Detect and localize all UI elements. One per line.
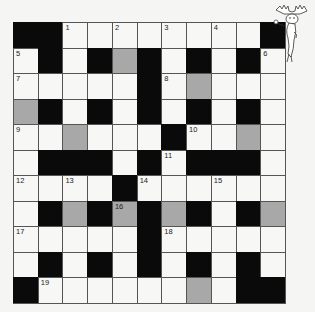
grid-cell[interactable] <box>62 252 87 278</box>
grid-cell[interactable] <box>38 73 63 99</box>
shaded-cell[interactable] <box>62 201 87 227</box>
grid-cell[interactable] <box>13 201 38 227</box>
grid-cell[interactable] <box>211 226 236 252</box>
grid-cell[interactable] <box>62 277 87 303</box>
clue-number: 5 <box>16 50 20 58</box>
grid-cell[interactable] <box>260 175 285 201</box>
black-block <box>236 277 261 303</box>
grid-cell[interactable]: 5 <box>13 48 38 74</box>
shaded-cell[interactable] <box>161 201 186 227</box>
grid-cell[interactable] <box>260 150 285 176</box>
grid-cell[interactable] <box>62 48 87 74</box>
grid-cell[interactable]: 12 <box>13 175 38 201</box>
black-block <box>161 124 186 150</box>
grid-cell[interactable] <box>260 73 285 99</box>
grid-cell[interactable] <box>236 73 261 99</box>
grid-cell[interactable] <box>87 124 112 150</box>
grid-cell[interactable]: 19 <box>38 277 63 303</box>
shaded-cell[interactable] <box>186 277 211 303</box>
grid-cell[interactable] <box>186 175 211 201</box>
grid-cell[interactable] <box>87 22 112 48</box>
grid-cell[interactable] <box>137 22 162 48</box>
shaded-cell[interactable] <box>260 201 285 227</box>
grid-cell[interactable]: 9 <box>13 124 38 150</box>
grid-cell[interactable] <box>161 175 186 201</box>
grid-cell[interactable] <box>112 150 137 176</box>
shaded-cell[interactable] <box>236 124 261 150</box>
grid-cell[interactable]: 10 <box>186 124 211 150</box>
shaded-cell[interactable] <box>62 124 87 150</box>
grid-cell[interactable] <box>236 175 261 201</box>
moose-mascot-icon <box>270 2 314 64</box>
black-block <box>137 201 162 227</box>
grid-cell[interactable] <box>211 124 236 150</box>
clue-number: 7 <box>16 75 20 83</box>
grid-cell[interactable] <box>137 124 162 150</box>
clue-number: 17 <box>16 228 24 236</box>
clue-number: 18 <box>164 228 172 236</box>
grid-cell[interactable] <box>38 124 63 150</box>
black-block <box>38 252 63 278</box>
grid-cell[interactable] <box>260 99 285 125</box>
clue-number: 11 <box>164 152 172 160</box>
grid-cell[interactable] <box>186 22 211 48</box>
grid-cell[interactable] <box>260 124 285 150</box>
grid-cell[interactable]: 2 <box>112 22 137 48</box>
grid-cell[interactable] <box>13 252 38 278</box>
grid-cell[interactable] <box>211 73 236 99</box>
grid-cell[interactable] <box>211 48 236 74</box>
black-block <box>186 48 211 74</box>
grid-cell[interactable] <box>186 226 211 252</box>
grid-cell[interactable] <box>161 277 186 303</box>
grid-cell[interactable]: 11 <box>161 150 186 176</box>
grid-cell[interactable]: 18 <box>161 226 186 252</box>
grid-cell[interactable] <box>87 277 112 303</box>
black-block <box>112 175 137 201</box>
grid-cell[interactable]: 13 <box>62 175 87 201</box>
grid-cell[interactable] <box>87 175 112 201</box>
grid-cell[interactable] <box>161 252 186 278</box>
grid-cell[interactable]: 14 <box>137 175 162 201</box>
grid-cell[interactable] <box>211 277 236 303</box>
grid-cell[interactable] <box>38 226 63 252</box>
crossword-page: 12345678910111213141516171819 <box>0 0 315 312</box>
grid-cell[interactable] <box>62 99 87 125</box>
grid-cell[interactable] <box>236 226 261 252</box>
grid-cell[interactable] <box>112 226 137 252</box>
clue-number: 12 <box>16 177 24 185</box>
grid-cell[interactable]: 7 <box>13 73 38 99</box>
grid-cell[interactable] <box>260 226 285 252</box>
grid-cell[interactable] <box>13 150 38 176</box>
grid-cell[interactable] <box>62 73 87 99</box>
grid-cell[interactable] <box>260 252 285 278</box>
grid-cell[interactable]: 15 <box>211 175 236 201</box>
shaded-cell[interactable] <box>112 48 137 74</box>
grid-cell[interactable] <box>236 22 261 48</box>
grid-cell[interactable]: 3 <box>161 22 186 48</box>
grid-cell[interactable] <box>211 252 236 278</box>
black-block <box>38 22 63 48</box>
grid-cell[interactable] <box>211 201 236 227</box>
grid-cell[interactable] <box>112 252 137 278</box>
grid-cell[interactable] <box>38 175 63 201</box>
grid-cell[interactable] <box>112 73 137 99</box>
grid-cell[interactable] <box>87 226 112 252</box>
shaded-cell[interactable]: 16 <box>112 201 137 227</box>
grid-cell[interactable] <box>112 99 137 125</box>
grid-cell[interactable] <box>211 99 236 125</box>
grid-cell[interactable] <box>137 277 162 303</box>
clue-number: 19 <box>41 279 49 287</box>
grid-cell[interactable] <box>112 277 137 303</box>
grid-cell[interactable] <box>112 124 137 150</box>
shaded-cell[interactable] <box>13 99 38 125</box>
grid-cell[interactable]: 17 <box>13 226 38 252</box>
grid-cell[interactable] <box>87 73 112 99</box>
grid-cell[interactable]: 4 <box>211 22 236 48</box>
shaded-cell[interactable] <box>186 73 211 99</box>
grid-cell[interactable]: 8 <box>161 73 186 99</box>
grid-cell[interactable] <box>161 48 186 74</box>
black-block <box>87 252 112 278</box>
grid-cell[interactable] <box>62 226 87 252</box>
grid-cell[interactable] <box>161 99 186 125</box>
grid-cell[interactable]: 1 <box>62 22 87 48</box>
